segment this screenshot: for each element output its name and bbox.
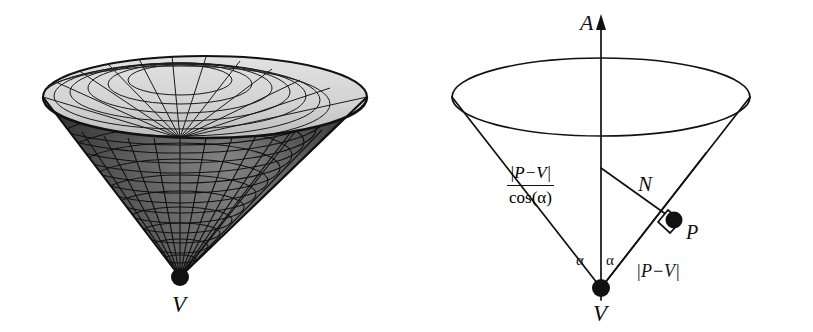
point-p-dot bbox=[666, 212, 683, 229]
schematic-cone-svg bbox=[406, 0, 813, 332]
angle-label-alpha-right: α bbox=[606, 253, 614, 268]
vertex-label-v: V bbox=[593, 302, 607, 325]
left-cone-vertex-label: V bbox=[172, 293, 186, 316]
distance-label-abs-p-minus-v: |P−V| bbox=[636, 262, 680, 280]
axis-arrow-head bbox=[596, 14, 606, 30]
panel-right-schematic-cone: A V P N α α |P−V| |P−V| cos(α) bbox=[406, 0, 813, 332]
slant-length-fraction: |P−V| cos(α) bbox=[507, 163, 554, 207]
fraction-numerator: |P−V| bbox=[507, 163, 554, 184]
normal-label-n: N bbox=[638, 174, 652, 195]
angle-label-alpha-left: α bbox=[576, 253, 584, 268]
apex-vertex-dot bbox=[171, 268, 189, 286]
fraction-bar bbox=[507, 185, 554, 186]
vertex-v-dot bbox=[592, 279, 610, 297]
panel-left-rendered-cone: V bbox=[0, 0, 406, 332]
axis-label-a: A bbox=[580, 12, 593, 34]
rendered-cone-svg bbox=[0, 0, 406, 332]
point-label-p: P bbox=[686, 222, 698, 242]
fraction-denominator: cos(α) bbox=[507, 187, 554, 208]
figure-container: V bbox=[0, 0, 813, 332]
